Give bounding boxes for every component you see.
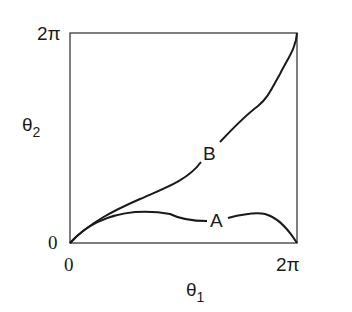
x-axis-theta: θ — [186, 279, 197, 300]
y-axis-label: θ2 — [22, 115, 40, 134]
x-axis-label: θ1 — [186, 280, 204, 299]
x-tick-right: 2π — [276, 255, 300, 274]
x-axis-subscript: 1 — [197, 289, 205, 305]
y-axis-subscript: 2 — [33, 124, 41, 140]
plot-frame — [70, 33, 297, 243]
curve-a-left — [70, 212, 207, 243]
x-tick-left: 0 — [64, 255, 74, 274]
y-tick-bottom: 0 — [48, 233, 58, 252]
y-axis-theta: θ — [22, 114, 33, 135]
curve-b-label: B — [203, 144, 216, 163]
curve-b-upper — [220, 33, 297, 142]
curve-a-label: A — [210, 211, 223, 230]
curve-a-right — [228, 213, 297, 243]
y-tick-top: 2π — [37, 24, 61, 43]
curve-b-lower — [70, 162, 201, 243]
